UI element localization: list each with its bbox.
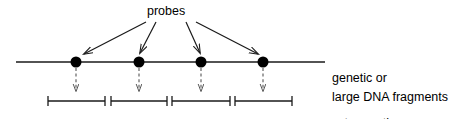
probe-arrow-3 [186, 22, 200, 53]
fragment-bar-1 [48, 96, 105, 106]
dashed-arrow-group [76, 68, 263, 91]
probe-arrow-4 [196, 22, 258, 54]
diagram-canvas: probes genetic or cytogenetic large DNA … [0, 0, 468, 119]
large-dna-fragments-label: large DNA fragments [332, 90, 448, 105]
fragment-bar-3 [172, 96, 230, 106]
probe-dot-2 [134, 57, 145, 68]
probe-dot-4 [258, 57, 269, 68]
genetic-label-line2: cytogenetic [332, 116, 395, 119]
probe-dot-1 [71, 57, 82, 68]
fragment-bar-4 [235, 96, 292, 106]
probe-arrow-group [84, 22, 258, 54]
probes-label: probes [147, 4, 185, 19]
probe-arrow-1 [84, 22, 146, 54]
genetic-label-line1: genetic or [332, 71, 395, 86]
fragment-bar-2 [111, 96, 167, 106]
genetic-cytogenetic-label: genetic or cytogenetic [332, 41, 395, 119]
probe-dot-3 [196, 57, 207, 68]
probe-arrow-2 [140, 22, 156, 53]
dna-fragment-group [48, 96, 292, 106]
